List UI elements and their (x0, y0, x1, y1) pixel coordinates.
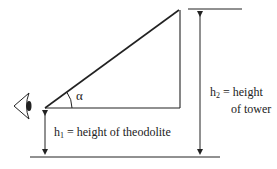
angle-alpha-label: α (76, 89, 83, 102)
h2-label: h2 = height (210, 86, 263, 100)
h2-label-line2: of tower (231, 103, 271, 115)
h2-text-line1: = height (220, 85, 263, 99)
diagram: α h1 = height of theodolite h2 = height … (0, 0, 277, 169)
angle-arc (67, 92, 72, 108)
h1-label: h1 = height of theodolite (54, 126, 171, 140)
eye-icon (14, 93, 32, 119)
line-of-sight (45, 10, 179, 108)
h1-text: = height of theodolite (64, 125, 171, 139)
